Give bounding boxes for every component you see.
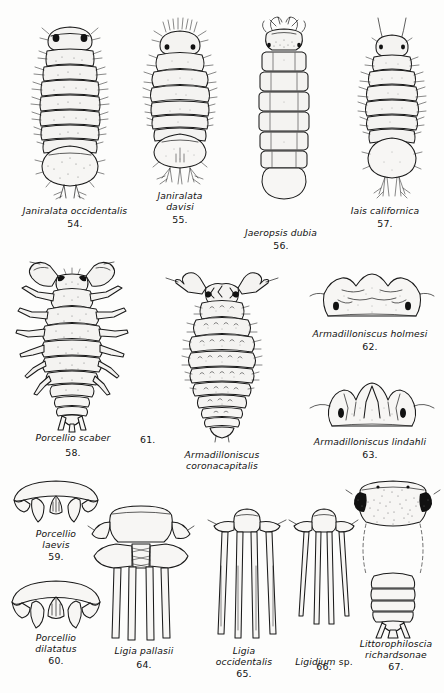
number-fig-58: 58. (8, 447, 138, 458)
isopod-dorsal-icon (158, 264, 286, 442)
isopod-dorsal-icon (348, 12, 440, 200)
number-fig-64: 64. (96, 659, 192, 670)
caption-fig-61: Armadilloniscus coronacapitalis (152, 449, 292, 471)
caption-fig-62: Armadilloniscus holmesi (296, 328, 444, 339)
isopod-dorsal-icon (236, 12, 332, 202)
isopod-uropod-icon (204, 506, 290, 640)
isopod-head-abdomen-icon (344, 478, 442, 638)
caption-fig-63: Armadilloniscus lindahli (296, 436, 444, 447)
caption-fig-64: Ligia pallasii (96, 645, 192, 656)
figure-65-ligia-occidentalis (204, 506, 290, 640)
number-fig-62: 62. (296, 341, 444, 352)
figure-62-armadilloniscus-holmesi (308, 272, 436, 324)
figure-67-littorophiloscia-richardsonae (344, 478, 442, 638)
caption-fig-58: Porcellio scaber (8, 432, 138, 443)
number-fig-57: 57. (326, 218, 444, 229)
figure-57-iais-californica (348, 12, 440, 200)
isopod-dorsal-icon (18, 14, 122, 199)
isopod-dorsal-icon (132, 16, 228, 186)
figure-56-jaeropsis-dubia (236, 12, 332, 202)
number-fig-56: 56. (216, 240, 346, 251)
caption-fig-57: Iais californica (326, 205, 444, 216)
isopod-dorsal-icon (12, 258, 132, 432)
figure-63-armadilloniscus-lindahli (308, 380, 436, 432)
figure-55-janiralata-davisi (132, 16, 228, 186)
figure-58-porcellio-scaber (12, 258, 132, 432)
isopod-uropod-icon (86, 512, 196, 642)
number-fig-61: 61. (140, 434, 166, 445)
isopod-head-icon (308, 272, 436, 324)
caption-fig-67: Littorophiloscia richardsonae (348, 638, 444, 660)
number-fig-63: 63. (296, 449, 444, 460)
caption-fig-55: Janiralata davisi (124, 190, 236, 212)
figure-64-ligia-pallasii (86, 512, 196, 642)
number-fig-67: 67. (348, 661, 444, 672)
figure-61-armadilloniscus-coronacapitalis (158, 264, 286, 442)
number-fig-55: 55. (124, 214, 236, 225)
isopod-head-icon (308, 380, 436, 432)
illustration-plate: Janiralata occidentalis 54. (0, 0, 444, 693)
figure-54-janiralata-occidentalis (18, 14, 122, 199)
